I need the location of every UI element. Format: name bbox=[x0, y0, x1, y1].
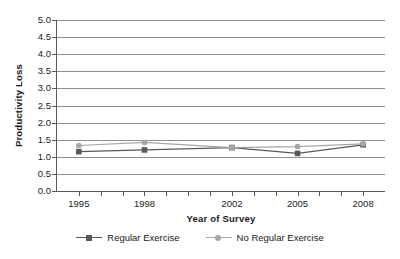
data-point-marker bbox=[295, 151, 301, 157]
x-axis-tick-label: 2002 bbox=[207, 198, 257, 209]
data-point-marker bbox=[142, 147, 148, 153]
x-axis-tick-label: 1998 bbox=[119, 198, 169, 209]
x-axis-tick-label: 2008 bbox=[338, 198, 388, 209]
data-point-marker bbox=[76, 143, 82, 149]
legend-label: No Regular Exercise bbox=[237, 232, 324, 243]
x-axis-tick bbox=[79, 192, 80, 196]
x-axis-tick-labels: 19951998200220052008 bbox=[57, 198, 385, 212]
x-axis-tick-marks bbox=[57, 192, 385, 197]
series-line-2 bbox=[79, 142, 363, 147]
x-axis-tick bbox=[101, 192, 102, 196]
legend-marker bbox=[86, 235, 92, 241]
legend-entry-2[interactable]: No Regular Exercise bbox=[206, 232, 324, 243]
plot-area bbox=[57, 20, 385, 191]
chart-legend: Regular ExerciseNo Regular Exercise bbox=[0, 232, 400, 243]
data-point-marker bbox=[142, 140, 148, 146]
x-axis-tick bbox=[276, 192, 277, 196]
x-axis-tick bbox=[210, 192, 211, 196]
x-axis-tick bbox=[254, 192, 255, 196]
x-axis-tick bbox=[363, 192, 364, 196]
x-axis-tick-label: 2005 bbox=[273, 198, 323, 209]
x-axis-tick bbox=[188, 192, 189, 196]
data-point-marker bbox=[295, 144, 301, 150]
x-axis-tick bbox=[319, 192, 320, 196]
legend-swatch-circle-icon bbox=[206, 233, 232, 243]
legend-entry-1[interactable]: Regular Exercise bbox=[76, 232, 179, 243]
y-axis-tick-marks bbox=[0, 20, 57, 191]
x-axis-tick bbox=[298, 192, 299, 196]
data-point-marker bbox=[229, 145, 235, 151]
data-point-marker bbox=[76, 149, 82, 155]
legend-label: Regular Exercise bbox=[107, 232, 179, 243]
x-axis-title: Year of Survey bbox=[57, 213, 385, 224]
legend-swatch-square-icon bbox=[76, 233, 102, 243]
x-axis-tick bbox=[123, 192, 124, 196]
productivity-loss-line-chart: Productivity Loss 0.00.51.01.52.02.53.03… bbox=[0, 0, 400, 259]
x-axis-tick bbox=[166, 192, 167, 196]
series-data-layer bbox=[57, 20, 385, 191]
x-axis-tick-label: 1995 bbox=[54, 198, 104, 209]
x-axis-tick bbox=[144, 192, 145, 196]
legend-marker bbox=[215, 235, 221, 241]
data-point-marker bbox=[360, 141, 366, 147]
x-axis-tick bbox=[341, 192, 342, 196]
x-axis-tick bbox=[232, 192, 233, 196]
